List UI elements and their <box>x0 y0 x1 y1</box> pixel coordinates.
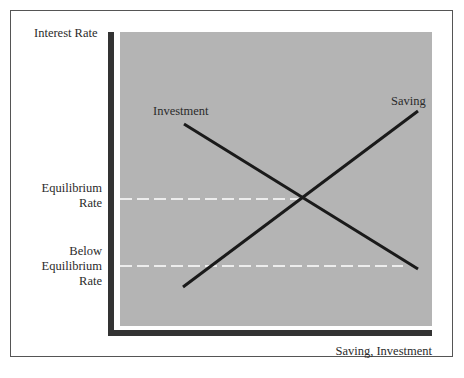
x-axis <box>108 330 432 336</box>
below-line-3: Rate <box>20 274 102 289</box>
below-line-1: Below <box>20 244 102 259</box>
below-line-2: Equilibrium <box>20 259 102 274</box>
plot-area <box>120 32 432 326</box>
x-axis-label: Saving, Investment <box>300 344 432 359</box>
investment-label: Investment <box>153 104 209 119</box>
below-equilibrium-tick-label: Below Equilibrium Rate <box>20 244 102 289</box>
equilibrium-rate-tick-label: Equilibrium Rate <box>20 181 102 211</box>
eq-line-2: Rate <box>20 196 102 211</box>
y-axis-label: Interest Rate <box>34 26 98 41</box>
eq-line-1: Equilibrium <box>20 181 102 196</box>
y-axis <box>108 32 114 336</box>
saving-label: Saving <box>391 94 426 109</box>
